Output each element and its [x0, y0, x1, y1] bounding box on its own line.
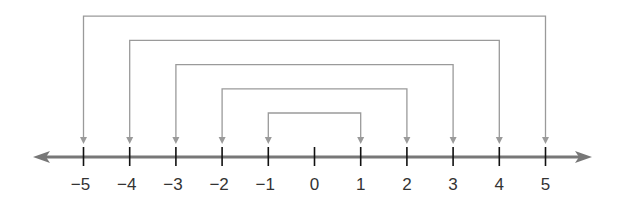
tick-label: −4: [117, 175, 136, 194]
tick-label: −1: [256, 175, 275, 194]
number-line-axis: [33, 151, 592, 163]
arrow-down-icon: [265, 137, 272, 144]
bracket--5-to-5: [80, 16, 549, 144]
tick-label: 4: [495, 175, 504, 194]
arrow-down-icon: [172, 137, 179, 144]
arrow-down-icon: [357, 137, 364, 144]
arrow-down-icon: [450, 137, 457, 144]
tick-label: 2: [402, 175, 411, 194]
tick-label: 0: [310, 175, 319, 194]
tick-label: 1: [356, 175, 365, 194]
tick-label: −2: [209, 175, 228, 194]
tick-label: 5: [541, 175, 550, 194]
bracket--2-to-2: [219, 89, 411, 144]
number-line-diagram: −5−4−3−2−1012345: [0, 0, 625, 198]
bracket--1-to-1: [265, 113, 364, 144]
opposite-pair-brackets: [80, 16, 549, 144]
tick-label: 3: [448, 175, 457, 194]
bracket--3-to-3: [172, 65, 456, 144]
arrow-down-icon: [403, 137, 410, 144]
bracket--4-to-4: [126, 40, 503, 144]
tick-label: −5: [71, 175, 90, 194]
arrow-down-icon: [80, 137, 87, 144]
arrow-down-icon: [219, 137, 226, 144]
arrow-down-icon: [496, 137, 503, 144]
tick-labels: −5−4−3−2−1012345: [71, 175, 550, 194]
tick-label: −3: [163, 175, 182, 194]
arrow-down-icon: [126, 137, 133, 144]
arrow-down-icon: [542, 137, 549, 144]
